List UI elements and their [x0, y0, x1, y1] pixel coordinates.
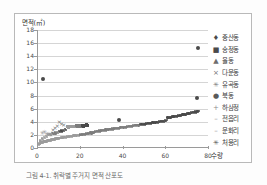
x-tick-mark — [80, 146, 81, 149]
figure-container: 면적(㎡) 024681012141618 ××××××✳✳✳✳✳ 020406… — [0, 0, 267, 185]
legend-label: 다운동 — [222, 70, 239, 77]
triangle-marker-icon: ▲ — [212, 58, 220, 66]
y-tick-label: 6 — [20, 106, 34, 112]
x-tick-label: 20 — [76, 152, 84, 159]
data-point-outlier — [195, 96, 199, 100]
circle-marker-icon: ● — [212, 93, 220, 101]
data-point-outlier — [41, 77, 45, 81]
legend-item-북동[interactable]: ●북동 — [212, 91, 258, 103]
data-point-marker: × — [61, 122, 66, 128]
y-tick-label: 0 — [20, 145, 34, 151]
plus-marker-icon: + — [212, 104, 220, 112]
x-marker-icon: × — [212, 70, 220, 78]
x-axis-title: 수량 — [211, 150, 223, 160]
gridline — [38, 69, 208, 70]
legend-item-유곡동[interactable]: ✳유곡동 — [212, 79, 258, 91]
gridline — [38, 43, 208, 44]
asterisk-marker-icon: ✳ — [212, 81, 220, 89]
data-point-marker: ✳ — [48, 132, 53, 138]
legend-item-율동[interactable]: ▲율동 — [212, 56, 258, 68]
y-tick-label: 12 — [20, 66, 34, 72]
y-tick-label: 18 — [20, 27, 34, 33]
gridline — [38, 82, 208, 83]
plot-area: ××××××✳✳✳✳✳ — [37, 30, 208, 148]
figure-caption: 그림 4-1. 취락별 주거지 면적 산포도 — [26, 170, 241, 182]
data-point — [198, 110, 200, 112]
legend-label: 율동 — [222, 58, 233, 65]
x-tick-mark — [208, 146, 209, 149]
chart-legend: ♦중산동■송정동▲율동×다운동✳유곡동●북동+하삼정–전읍리–운화리✳처용리 — [212, 33, 258, 149]
legend-label: 처용리 — [222, 140, 239, 147]
gridline — [38, 30, 208, 31]
data-point — [39, 140, 41, 142]
legend-item-운화리[interactable]: –운화리 — [212, 126, 258, 138]
y-tick-label: 14 — [20, 53, 34, 59]
dash-marker-icon: – — [212, 128, 220, 136]
legend-item-송정동[interactable]: ■송정동 — [212, 45, 258, 57]
gridline — [38, 56, 208, 57]
y-axis-tick-labels: 024681012141618 — [19, 30, 34, 148]
legend-item-전읍리[interactable]: –전읍리 — [212, 114, 258, 126]
diamond-marker-icon: ♦ — [212, 35, 220, 43]
y-tick-label: 2 — [20, 132, 34, 138]
y-tick-label: 16 — [20, 40, 34, 46]
x-tick-mark — [165, 146, 166, 149]
legend-item-다운동[interactable]: ×다운동 — [212, 68, 258, 80]
gridline — [38, 96, 208, 97]
legend-item-중산동[interactable]: ♦중산동 — [212, 33, 258, 45]
legend-label: 하삼정 — [222, 105, 239, 112]
legend-label: 송정동 — [222, 47, 239, 54]
legend-label: 북동 — [222, 93, 233, 100]
x-tick-mark — [123, 146, 124, 149]
square-marker-icon: ■ — [212, 46, 220, 54]
x-tick-mark — [37, 146, 38, 149]
legend-label: 중산동 — [222, 35, 239, 42]
legend-item-하삼정[interactable]: +하삼정 — [212, 103, 258, 115]
y-tick-label: 8 — [20, 93, 34, 99]
data-point — [86, 124, 89, 127]
asterisk-marker-icon: ✳ — [212, 139, 220, 147]
dash-marker-icon: – — [212, 116, 220, 124]
x-axis-tick-labels: 020406080 — [37, 150, 208, 162]
data-point-outlier — [196, 46, 200, 50]
y-tick-label: 4 — [20, 119, 34, 125]
x-tick-label: 60 — [161, 152, 169, 159]
legend-label: 전읍리 — [222, 116, 239, 123]
data-point — [65, 129, 67, 131]
x-tick-label: 0 — [35, 152, 39, 159]
legend-label: 운화리 — [222, 128, 239, 135]
x-tick-label: 40 — [119, 152, 127, 159]
legend-label: 유곡동 — [222, 82, 239, 89]
gridline — [38, 109, 208, 110]
legend-item-처용리[interactable]: ✳처용리 — [212, 137, 258, 149]
y-tick-label: 10 — [20, 79, 34, 85]
